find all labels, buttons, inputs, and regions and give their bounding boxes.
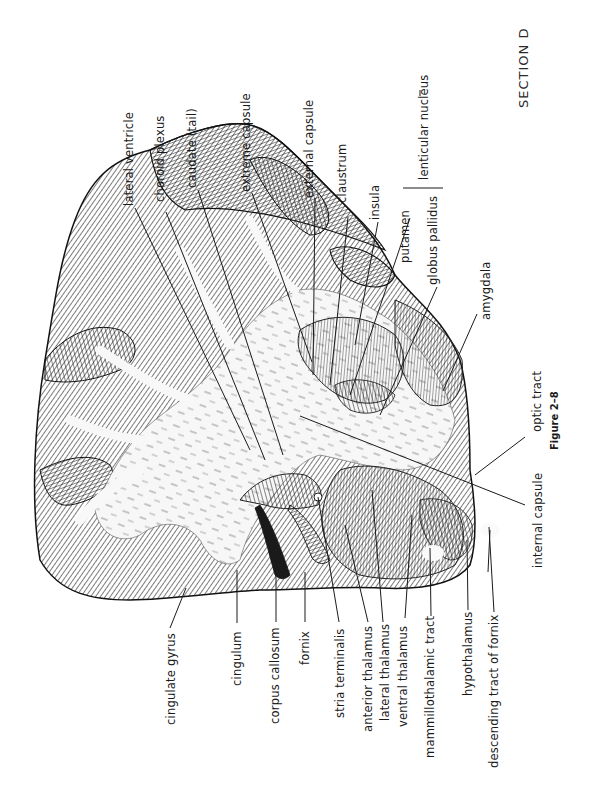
label-lateral-ventricle: lateral ventricle xyxy=(124,112,136,206)
brain-section-figure: lateral ventricle choroid plexus caudate… xyxy=(0,0,595,806)
label-cingulum: cingulum xyxy=(232,631,244,686)
label-extreme-capsule: extreme capsule xyxy=(241,93,253,192)
label-optic-tract: optic tract xyxy=(532,371,544,432)
label-caudate-tail: caudate (tail) xyxy=(187,108,199,188)
label-cingulate-gyrus: cingulate gyrus xyxy=(166,633,178,725)
brain-section-drawing xyxy=(0,0,595,806)
label-ventral-thalamus: ventral thalamus xyxy=(398,626,410,727)
label-globus-pallidus: globus pallidus xyxy=(428,196,440,285)
label-claustrum: claustrum xyxy=(337,144,349,203)
label-lenticular-nucleus: lenticular nucleus xyxy=(419,74,431,180)
label-mammillothalamic-tract: mammillothalamic tract xyxy=(425,616,437,758)
label-corpus-callosum: corpus callosum xyxy=(270,627,282,724)
label-external-capsule: external capsule xyxy=(304,100,316,198)
label-choroid-plexus: choroid plexus xyxy=(155,115,167,202)
figure-caption: Figure 2–8 xyxy=(549,391,560,450)
label-insula: insula xyxy=(370,185,382,220)
label-descending-tract-of-fornix: descending tract of fornix xyxy=(489,615,501,768)
label-amygdala: amygdala xyxy=(481,261,493,320)
section-title: SECTION D xyxy=(516,28,531,108)
label-fornix: fornix xyxy=(300,631,312,665)
label-hypothalamus: hypothalamus xyxy=(463,612,475,696)
label-lateral-thalamus: lateral thalamus xyxy=(380,624,392,721)
label-putamen: putamen xyxy=(400,210,412,263)
label-internal-capsule: internal capsule xyxy=(533,473,545,568)
label-stria-terminalis: stria terminalis xyxy=(335,628,347,718)
label-anterior-thalamus: anterior thalamus xyxy=(363,626,375,732)
